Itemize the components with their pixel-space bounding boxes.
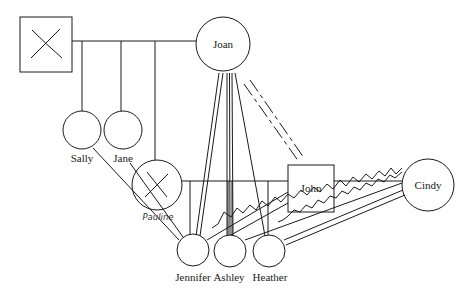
person-father-deceased[interactable] [20,17,72,72]
person-sally[interactable]: Sally [63,111,101,164]
genogram-diagram: Joan Sally Jane Pauline John [0,0,471,296]
relationship-joan-john-dashed [244,80,304,162]
person-john[interactable]: John [288,165,334,212]
relationship-joan-heather [235,73,265,236]
label-cindy: Cindy [415,179,442,191]
label-joan: Joan [213,38,234,50]
person-cindy[interactable]: Cindy [402,159,454,211]
person-heather[interactable]: Heather [253,235,288,283]
relationship-john-ashley [207,192,288,240]
person-jennifer[interactable]: Jennifer [175,234,211,283]
label-jane: Jane [113,152,133,164]
label-jennifer: Jennifer [175,271,211,283]
person-pauline-deceased[interactable]: Pauline [132,160,182,222]
person-ashley[interactable]: Ashley [213,235,246,283]
person-joan[interactable]: Joan [196,17,250,71]
relationship-joan-jennifer [196,73,223,236]
label-ashley: Ashley [213,271,245,283]
label-heather: Heather [253,271,288,283]
label-sally: Sally [71,152,94,164]
person-jane[interactable]: Jane [104,111,142,164]
